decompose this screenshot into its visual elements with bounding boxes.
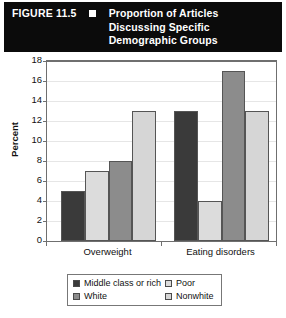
bar [174, 111, 198, 241]
figure-title-line-3: Demographic Groups [109, 34, 219, 48]
legend-item: Middle class or rich [73, 278, 165, 289]
plot-area [46, 60, 277, 242]
y-tick-label: 6 [20, 175, 42, 185]
bar [132, 111, 156, 241]
figure-title-line-1: Proportion of Articles [109, 7, 219, 21]
chart-legend: Middle class or richPoorWhiteNonwhite [67, 274, 222, 306]
legend-swatch [165, 293, 172, 300]
bar-series-container [47, 61, 276, 241]
figure-banner-row: FIGURE 11.5 Proportion of Articles Discu… [12, 7, 276, 48]
legend-label: White [84, 291, 107, 302]
bar [198, 201, 222, 241]
legend-swatch [165, 280, 172, 287]
bar [61, 191, 85, 241]
figure-title: Proportion of Articles Discussing Specif… [109, 7, 219, 48]
bar [222, 71, 246, 241]
x-tick-mark [276, 242, 277, 246]
legend-label: Poor [176, 278, 195, 289]
figure-banner: FIGURE 11.5 Proportion of Articles Discu… [4, 2, 282, 52]
legend-grid: Middle class or richPoorWhiteNonwhite [73, 278, 217, 302]
bar [245, 111, 269, 241]
legend-label: Nonwhite [176, 291, 214, 302]
legend-swatch [73, 293, 80, 300]
y-tick-label: 4 [20, 195, 42, 205]
y-tick-label: 0 [20, 235, 42, 245]
legend-item: Nonwhite [165, 291, 217, 302]
x-tick-mark [161, 242, 162, 246]
square-bullet-icon [89, 10, 96, 17]
bar [109, 161, 133, 241]
figure-title-line-2: Discussing Specific [109, 21, 219, 35]
bar [85, 171, 109, 241]
y-tick-label: 14 [20, 95, 42, 105]
figure-number: FIGURE 11.5 [12, 7, 77, 20]
x-tick-mark [46, 242, 47, 246]
x-tick-label: Overweight [48, 246, 167, 257]
legend-item: White [73, 291, 165, 302]
y-tick-label: 10 [20, 135, 42, 145]
y-tick-label: 8 [20, 155, 42, 165]
x-tick-label: Eating disorders [161, 246, 280, 257]
y-tick-label: 12 [20, 115, 42, 125]
y-tick-label: 16 [20, 75, 42, 85]
legend-swatch [73, 280, 80, 287]
y-axis-ticks: 024681012141618 [16, 56, 42, 246]
bar-chart: Percent 024681012141618 OverweightEating… [0, 56, 286, 256]
legend-item: Poor [165, 278, 217, 289]
legend-label: Middle class or rich [84, 278, 161, 289]
y-tick-label: 2 [20, 215, 42, 225]
y-tick-label: 18 [20, 55, 42, 65]
